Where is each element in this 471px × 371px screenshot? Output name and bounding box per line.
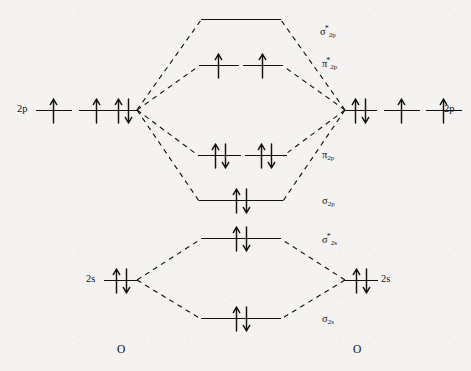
level-sigma-star-2p	[201, 19, 281, 20]
line-left2p-to-pistar2p	[137, 66, 199, 110]
line-right2p-to-pistar2p	[283, 66, 345, 110]
label-2s-left: 2s	[86, 274, 95, 285]
electron-group	[201, 226, 281, 252]
label-2s-right: 2s	[381, 274, 390, 285]
electron-arrow-up	[352, 268, 361, 294]
atom-label-left: O	[117, 344, 125, 356]
electron-arrow-up	[258, 53, 267, 79]
label-pi-2p-sub: 2p	[327, 154, 334, 162]
atom-label-left-text: O	[117, 343, 125, 355]
orbital-sigma-star-2s	[201, 238, 281, 239]
orbital-pi-star-2p-a	[199, 65, 239, 66]
electron-group	[104, 268, 138, 294]
line-left2s-to-sigmastar2s	[137, 239, 201, 280]
electron-arrow-up	[232, 188, 241, 214]
electron-arrow-up	[232, 306, 241, 332]
electron-arrow-up	[49, 98, 58, 124]
electron-group	[245, 143, 287, 169]
electron-arrow-up	[112, 268, 121, 294]
electron-arrow-down	[122, 268, 131, 294]
electron-arrow-up	[214, 53, 223, 79]
orbital-sigma-2s	[201, 318, 281, 319]
mo-energy-diagram: σ*2p π*2p 2p	[0, 0, 471, 371]
electron-arrow-up	[397, 98, 406, 124]
electron-arrow-up	[114, 98, 123, 124]
electron-group	[199, 53, 239, 79]
atom-label-right: O	[353, 344, 361, 356]
label-sigma-star-2s-sub: 2s	[331, 239, 337, 247]
label-sigma-star-2s: σ*2s	[322, 233, 337, 247]
label-pi-2p: π2p	[322, 150, 334, 162]
label-sigma-2p-sub: 2p	[328, 200, 335, 208]
electron-arrow-up	[211, 143, 220, 169]
label-sigma-star-2p: σ*2p	[320, 25, 336, 39]
label-pi-star-2p-sub: 2p	[330, 63, 337, 71]
electron-group	[344, 98, 377, 124]
orbital-2p-right-2	[384, 110, 420, 111]
orbital-pi-2p-a	[199, 155, 241, 156]
electron-arrow-down	[242, 306, 251, 332]
label-2s-right-text: 2s	[381, 273, 390, 284]
label-2p-right: 2p	[444, 104, 455, 115]
line-left2p-to-pi2p	[137, 110, 199, 156]
electron-arrow-up	[257, 143, 266, 169]
electron-group	[36, 98, 72, 124]
line-right2p-to-pi2p	[283, 110, 345, 156]
electron-arrow-down	[242, 188, 251, 214]
label-sigma-2s: σ2s	[322, 314, 334, 326]
line-left2p-to-sigmastar2p	[137, 20, 201, 110]
label-pi-star-2p: π*2p	[322, 57, 337, 71]
orbital-2s-right	[344, 280, 378, 281]
line-left2p-to-sigma2p	[137, 110, 199, 201]
label-sigma-2s-sub: 2s	[328, 318, 334, 326]
electron-arrow-up	[92, 98, 101, 124]
orbital-pi-star-2p-b	[243, 65, 283, 66]
atom-label-right-text: O	[353, 343, 361, 355]
orbital-2p-right-1	[344, 110, 377, 111]
line-right2s-to-sigma2s	[281, 280, 345, 319]
label-2p-left: 2p	[17, 104, 28, 115]
electron-arrow-up	[351, 98, 360, 124]
electron-group	[201, 306, 281, 332]
electron-group	[199, 143, 241, 169]
electron-arrow-down	[124, 98, 133, 124]
electron-group	[105, 98, 138, 124]
orbital-2p-left-3	[105, 110, 138, 111]
orbital-2p-left-1	[36, 110, 72, 111]
orbital-sigma-2p	[199, 200, 283, 201]
line-right2p-to-sigma2p	[283, 110, 345, 201]
electron-group	[344, 268, 378, 294]
electron-arrow-down	[267, 143, 276, 169]
label-2s-left-text: 2s	[86, 273, 95, 284]
label-sigma-2p: σ2p	[322, 196, 335, 208]
electron-group	[384, 98, 420, 124]
electron-arrow-down	[362, 268, 371, 294]
electron-group	[243, 53, 283, 79]
electron-arrow-down	[361, 98, 370, 124]
orbital-pi-2p-b	[245, 155, 287, 156]
label-sigma-star-2p-sub: 2p	[329, 31, 336, 39]
line-left2s-to-sigma2s	[137, 280, 201, 319]
electron-arrow-up	[232, 226, 241, 252]
label-2p-right-text: 2p	[444, 103, 455, 114]
electron-arrow-down	[221, 143, 230, 169]
electron-group	[199, 188, 283, 214]
electron-arrow-down	[242, 226, 251, 252]
label-2p-left-text: 2p	[17, 103, 28, 114]
orbital-2s-left	[104, 280, 138, 281]
